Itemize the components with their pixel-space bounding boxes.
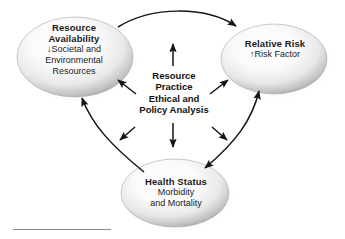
- arrow-risk-health-bidirectional[interactable]: [205, 91, 259, 168]
- arrow-center-up-left[interactable]: [118, 80, 136, 94]
- arrow-connectors-layer: [0, 0, 345, 239]
- arrow-health-to-availability[interactable]: [82, 98, 144, 172]
- caption-divider-rule: [13, 229, 111, 230]
- arrow-center-down-right[interactable]: [212, 127, 227, 140]
- arrow-center-up-right[interactable]: [210, 80, 228, 94]
- figure-diagram: Resource Availability ↓Societal and Envi…: [0, 0, 345, 239]
- arrow-availability-to-risk[interactable]: [118, 11, 236, 27]
- arrow-center-down-left[interactable]: [120, 127, 135, 140]
